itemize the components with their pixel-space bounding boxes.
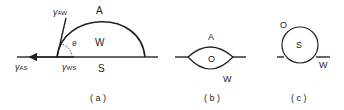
caption-a: ( a ) bbox=[90, 93, 106, 103]
phase-a-label: A bbox=[96, 5, 103, 16]
phase-o-label: O bbox=[280, 20, 287, 30]
wetting-diagram: γAW A W θ γAS γWS S ( a ) A O W ( b ) O … bbox=[0, 0, 344, 110]
panel-b: A O W ( b ) bbox=[175, 32, 246, 103]
phase-w-label: W bbox=[319, 60, 328, 70]
phase-w-label: W bbox=[223, 74, 232, 84]
caption-b: ( b ) bbox=[204, 93, 220, 103]
phase-s-label: S bbox=[98, 63, 105, 74]
panel-c: O S W ( c ) bbox=[277, 20, 330, 103]
gamma-as-label: γAS bbox=[15, 62, 28, 72]
contact-angle-arc bbox=[61, 44, 72, 57]
phase-o-label: O bbox=[208, 54, 215, 64]
caption-c: ( c ) bbox=[291, 93, 307, 103]
phase-a-label: A bbox=[208, 32, 214, 42]
phase-s-label: S bbox=[296, 40, 302, 50]
phase-w-label: W bbox=[95, 37, 105, 48]
panel-a: γAW A W θ γAS γWS S ( a ) bbox=[15, 5, 158, 103]
gamma-ws-label: γWS bbox=[62, 62, 76, 72]
gamma-aw-label: γAW bbox=[53, 7, 67, 17]
theta-label: θ bbox=[72, 39, 77, 48]
